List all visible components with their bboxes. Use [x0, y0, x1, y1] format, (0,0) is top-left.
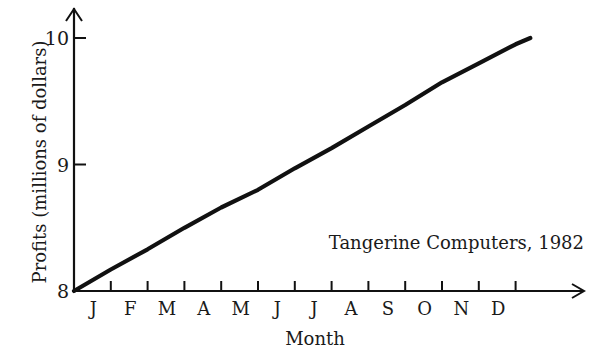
x-tick-label: S — [382, 298, 394, 319]
x-tick-label: N — [454, 298, 470, 319]
x-tick-label: M — [158, 298, 176, 319]
x-tick-label: J — [309, 298, 318, 319]
x-tick-label: D — [491, 298, 505, 319]
x-tick-label: A — [196, 298, 211, 319]
line-chart: 8910 JFMAMJJASOND Tangerine Computers, 1… — [0, 0, 597, 360]
x-ticks: JFMAMJJASOND — [88, 281, 516, 319]
y-ticks: 8910 — [45, 27, 86, 302]
y-tick-label: 8 — [57, 280, 69, 302]
x-tick-label: J — [88, 298, 97, 319]
x-tick-label: A — [344, 298, 359, 319]
x-tick-label: J — [272, 298, 281, 319]
y-tick-label: 9 — [57, 154, 69, 176]
y-axis-label: Profits (millions of dollars) — [29, 41, 50, 284]
x-tick-label: M — [231, 298, 249, 319]
profit-line — [74, 38, 530, 291]
x-tick-label: F — [124, 298, 137, 319]
x-axis-label: Month — [285, 328, 345, 349]
x-tick-label: O — [417, 298, 432, 319]
chart-annotation: Tangerine Computers, 1982 — [329, 232, 584, 253]
